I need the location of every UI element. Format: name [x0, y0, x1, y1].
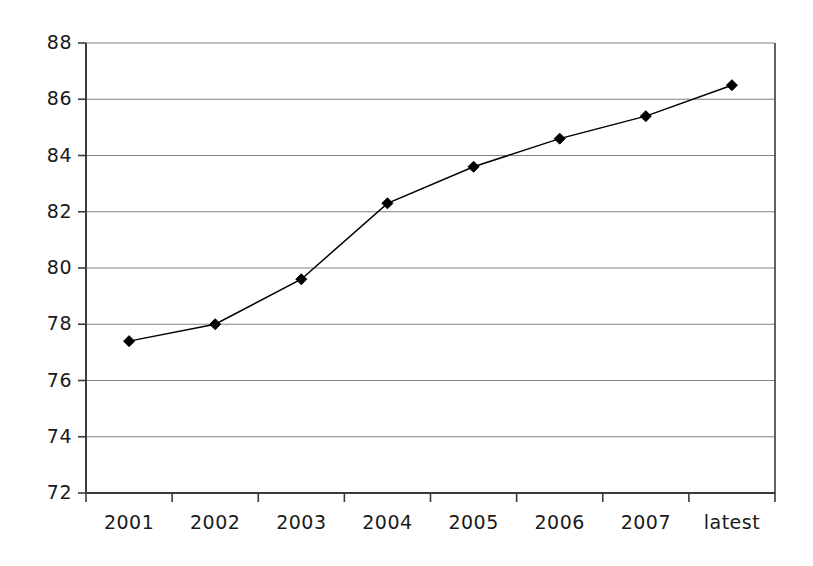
- x-tick-label: latest: [689, 511, 775, 533]
- data-point-marker: [726, 80, 737, 91]
- y-tick-label: 86: [36, 87, 72, 109]
- y-tick-label: 88: [36, 31, 72, 53]
- data-markers-group: [124, 80, 738, 347]
- y-tick-marks-group: [78, 43, 86, 493]
- y-tick-label: 74: [36, 425, 72, 447]
- x-tick-marks-group: [86, 493, 775, 502]
- x-tick-label: 2007: [603, 511, 689, 533]
- data-point-marker: [554, 133, 565, 144]
- gridlines-group: [86, 43, 775, 493]
- y-tick-label: 72: [36, 481, 72, 503]
- y-tick-label: 82: [36, 200, 72, 222]
- x-tick-label: 2006: [517, 511, 603, 533]
- x-tick-label: 2003: [258, 511, 344, 533]
- x-tick-label: 2002: [172, 511, 258, 533]
- y-tick-label: 80: [36, 256, 72, 278]
- chart-canvas: [0, 0, 813, 566]
- data-line-group: [129, 85, 732, 341]
- data-point-marker: [468, 161, 479, 172]
- x-tick-label: 2005: [431, 511, 517, 533]
- y-tick-label: 78: [36, 312, 72, 334]
- data-point-marker: [210, 319, 221, 330]
- data-point-marker: [640, 111, 651, 122]
- x-tick-label: 2004: [344, 511, 430, 533]
- x-tick-label: 2001: [86, 511, 172, 533]
- line-chart: 727476788082848688 200120022003200420052…: [0, 0, 813, 566]
- data-point-marker: [124, 336, 135, 347]
- y-tick-label: 76: [36, 369, 72, 391]
- y-tick-label: 84: [36, 144, 72, 166]
- data-series-line: [129, 85, 732, 341]
